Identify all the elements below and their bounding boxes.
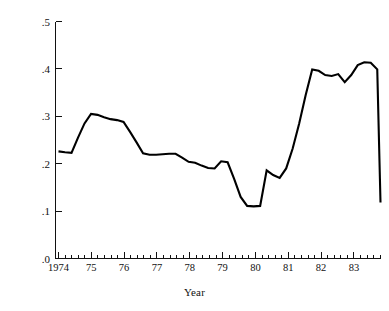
x-tick-marks [59, 252, 354, 259]
x-tick-label: 79 [217, 262, 228, 273]
y-tick-marks [56, 22, 62, 259]
chart-figure: .5 .4 .3 .2 .1 .0 [0, 0, 389, 311]
x-tick-label: 76 [119, 262, 130, 273]
x-axis-title: Year [0, 286, 389, 298]
y-tick-label: .5 [42, 16, 51, 28]
x-tick-label: 82 [316, 262, 327, 273]
data-series-line [59, 62, 381, 206]
line-chart-plot: .5 .4 .3 .2 .1 .0 [0, 0, 389, 311]
y-tick-label: .1 [42, 205, 50, 217]
x-tick-label: 78 [185, 262, 196, 273]
x-tick-labels: 1974 75 76 77 78 79 80 81 82 83 [48, 262, 359, 273]
y-tick-labels: .5 .4 .3 .2 .1 .0 [42, 16, 51, 265]
x-tick-label: 75 [86, 262, 97, 273]
x-tick-label: 81 [283, 262, 294, 273]
x-tick-label: 80 [250, 262, 261, 273]
axes-group [56, 22, 381, 259]
y-tick-label: .3 [42, 110, 51, 122]
x-tick-label: 1974 [48, 262, 70, 273]
y-tick-label: .4 [42, 63, 51, 75]
x-tick-label: 83 [349, 262, 360, 273]
x-tick-label: 77 [152, 262, 163, 273]
y-tick-label: .2 [42, 158, 50, 170]
